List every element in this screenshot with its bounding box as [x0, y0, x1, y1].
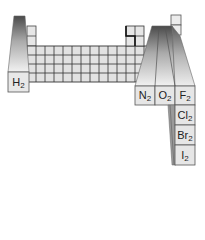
element-cl2: Cl2 — [175, 110, 195, 123]
element-f2: F2 — [175, 90, 195, 103]
element-br2: Br2 — [175, 130, 195, 143]
element-o2: O2 — [155, 90, 175, 103]
element-i2: I2 — [175, 150, 195, 163]
element-h2: H2 — [8, 77, 29, 90]
element-n2: N2 — [135, 90, 155, 103]
